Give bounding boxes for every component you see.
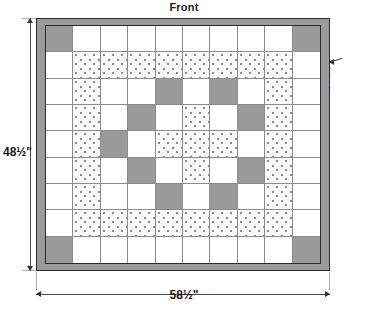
patch-white — [156, 26, 183, 52]
patch-white — [238, 26, 265, 52]
height-arrow-top — [27, 18, 33, 23]
patch-gray — [46, 237, 73, 263]
patch-white — [210, 237, 237, 263]
patch-white — [183, 237, 210, 263]
patch-white — [238, 184, 265, 210]
patch-white — [101, 158, 128, 184]
width-dimension-label: 58½" — [0, 288, 368, 302]
patch-white — [128, 237, 155, 263]
patch-dotted — [156, 131, 183, 157]
patch-gray — [293, 237, 320, 263]
patch-dotted — [101, 210, 128, 236]
patch-gray — [210, 184, 237, 210]
patch-gray — [210, 79, 237, 105]
patch-dotted — [128, 52, 155, 78]
patch-white — [238, 79, 265, 105]
patch-dotted — [238, 52, 265, 78]
patch-white — [293, 79, 320, 105]
patch-white — [210, 158, 237, 184]
patch-white — [210, 105, 237, 131]
patch-white — [293, 210, 320, 236]
patch-white — [101, 237, 128, 263]
patch-white — [46, 105, 73, 131]
patch-dotted — [156, 52, 183, 78]
patch-gray — [128, 158, 155, 184]
patch-dotted — [210, 131, 237, 157]
patch-white — [293, 131, 320, 157]
patch-dotted — [73, 52, 100, 78]
patch-dotted — [73, 210, 100, 236]
patch-gray — [238, 158, 265, 184]
patch-dotted — [73, 158, 100, 184]
patch-white — [293, 105, 320, 131]
patch-dotted — [73, 105, 100, 131]
height-arrow-bottom — [27, 266, 33, 271]
quilt-patch-grid — [46, 26, 320, 263]
patch-gray — [238, 105, 265, 131]
patch-white — [265, 237, 292, 263]
patch-white — [128, 131, 155, 157]
patch-white — [101, 26, 128, 52]
patch-dotted — [183, 105, 210, 131]
patch-white — [293, 184, 320, 210]
patch-dotted — [265, 52, 292, 78]
patch-gray — [156, 79, 183, 105]
patch-dotted — [265, 79, 292, 105]
patch-dotted — [265, 131, 292, 157]
patch-white — [183, 79, 210, 105]
patch-dotted — [210, 52, 237, 78]
patch-gray — [101, 131, 128, 157]
patch-white — [46, 184, 73, 210]
patch-dotted — [101, 52, 128, 78]
patch-dotted — [183, 52, 210, 78]
patch-white — [210, 26, 237, 52]
patch-white — [293, 52, 320, 78]
patch-white — [238, 237, 265, 263]
patch-dotted — [73, 79, 100, 105]
patch-dotted — [265, 158, 292, 184]
patch-gray — [156, 184, 183, 210]
patch-dotted — [265, 184, 292, 210]
patch-white — [128, 26, 155, 52]
patch-white — [128, 79, 155, 105]
patch-white — [46, 158, 73, 184]
patch-white — [156, 158, 183, 184]
patch-white — [265, 26, 292, 52]
patch-white — [156, 105, 183, 131]
patch-dotted — [238, 210, 265, 236]
height-dimension-label: 48½" — [3, 145, 32, 159]
patch-white — [293, 158, 320, 184]
patch-dotted — [73, 131, 100, 157]
patch-white — [73, 237, 100, 263]
patch-white — [46, 52, 73, 78]
page-title: Front — [0, 1, 368, 13]
patch-white — [238, 131, 265, 157]
patch-white — [101, 79, 128, 105]
patch-gray — [293, 26, 320, 52]
quilt-diagram: Front 48½" 58½" Binding — [0, 0, 368, 312]
patch-white — [73, 26, 100, 52]
patch-dotted — [265, 105, 292, 131]
patch-dotted — [265, 210, 292, 236]
patch-gray — [128, 105, 155, 131]
patch-dotted — [183, 210, 210, 236]
patch-dotted — [73, 184, 100, 210]
patch-white — [183, 184, 210, 210]
patch-white — [183, 26, 210, 52]
patch-white — [156, 237, 183, 263]
patch-white — [46, 210, 73, 236]
patch-white — [128, 184, 155, 210]
patch-dotted — [183, 131, 210, 157]
patch-gray — [46, 26, 73, 52]
patch-white — [101, 105, 128, 131]
patch-dotted — [128, 210, 155, 236]
patch-dotted — [210, 210, 237, 236]
patch-white — [46, 131, 73, 157]
patch-white — [46, 79, 73, 105]
patch-dotted — [183, 158, 210, 184]
patch-dotted — [156, 210, 183, 236]
patch-white — [101, 184, 128, 210]
